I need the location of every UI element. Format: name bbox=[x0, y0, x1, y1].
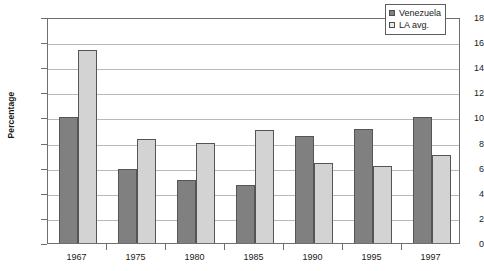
x-tick-label-1997: 1997 bbox=[401, 252, 461, 262]
bar-la-avg-1995 bbox=[373, 166, 392, 243]
bar-la-avg-1985 bbox=[255, 130, 274, 243]
chart-legend: VenezuelaLA avg. bbox=[385, 4, 446, 35]
x-tick-label-1985: 1985 bbox=[224, 252, 284, 262]
x-tick-mark bbox=[165, 244, 166, 250]
plot-area bbox=[47, 18, 460, 244]
bar-group bbox=[284, 19, 343, 243]
bar-la-avg-1967 bbox=[78, 50, 97, 243]
legend-item-la-avg: LA avg. bbox=[389, 19, 441, 31]
bar-venezuela-1967 bbox=[59, 117, 78, 243]
x-tick-label-1967: 1967 bbox=[47, 252, 107, 262]
bar-group bbox=[343, 19, 402, 243]
bar-chart-figure: Percentage 024681012141618 1967197519801… bbox=[0, 0, 484, 271]
bar-group bbox=[402, 19, 461, 243]
bar-venezuela-1995 bbox=[354, 129, 373, 243]
bar-venezuela-1975 bbox=[118, 169, 137, 243]
bar-group bbox=[107, 19, 166, 243]
x-tick-label-1980: 1980 bbox=[165, 252, 225, 262]
bar-group bbox=[166, 19, 225, 243]
bar-group bbox=[48, 19, 107, 243]
legend-item-venezuela: Venezuela bbox=[389, 7, 441, 19]
legend-label: LA avg. bbox=[399, 20, 429, 30]
bar-la-avg-1975 bbox=[137, 139, 156, 243]
x-tick-mark bbox=[106, 244, 107, 250]
y-axis-title: Percentage bbox=[6, 65, 16, 165]
x-tick-mark bbox=[283, 244, 284, 250]
bar-venezuela-1990 bbox=[295, 136, 314, 243]
x-tick-label-1995: 1995 bbox=[342, 252, 402, 262]
bar-venezuela-1980 bbox=[177, 180, 196, 243]
bar-group bbox=[225, 19, 284, 243]
bar-la-avg-1980 bbox=[196, 143, 215, 243]
x-tick-mark bbox=[224, 244, 225, 250]
bar-venezuela-1997 bbox=[413, 117, 432, 243]
y-tick-mark bbox=[41, 244, 47, 245]
bar-venezuela-1985 bbox=[236, 185, 255, 243]
x-tick-label-1975: 1975 bbox=[106, 252, 166, 262]
legend-label: Venezuela bbox=[399, 8, 441, 18]
x-tick-mark bbox=[401, 244, 402, 250]
bar-la-avg-1990 bbox=[314, 163, 333, 243]
legend-swatch-icon bbox=[389, 10, 395, 16]
x-tick-mark bbox=[342, 244, 343, 250]
bar-la-avg-1997 bbox=[432, 155, 451, 243]
x-tick-label-1990: 1990 bbox=[283, 252, 343, 262]
legend-swatch-icon bbox=[389, 22, 395, 28]
